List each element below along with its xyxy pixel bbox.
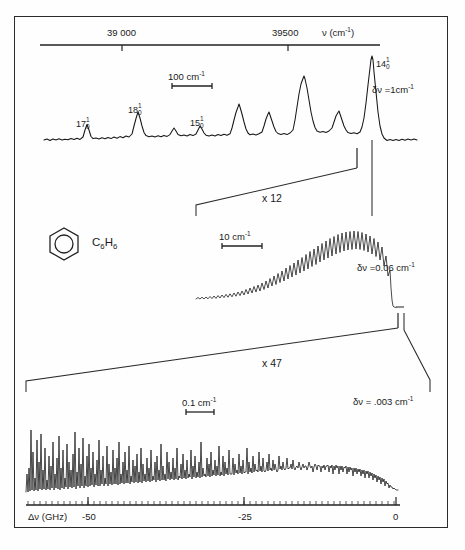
spectrum-figure: 39 000 39500 ν (cm-1) 100 cm-1 δν =1cm-1… [0,0,465,550]
bottom-axis-title: Δν (GHz) [28,512,67,522]
bottom-axis-tick-label-zero: 0 [393,512,398,522]
bottom-axis-tick-label-minus25: -25 [238,512,252,522]
bottom-resolution-sup: -1 [408,395,414,402]
bottom-spectrum-trace [26,430,398,492]
bottom-scale-bar-label: 0.1 cm-1 [182,397,216,408]
bottom-resolution-label: δν = .003 cm-1 [353,396,413,407]
bottom-resolution-text: δν = .003 cm [353,396,408,407]
bottom-axis-tick-label-minus50: -50 [82,512,96,522]
bottom-panel-graphics [0,0,465,550]
bottom-scale-bar-sup: -1 [211,396,217,403]
bottom-scale-bar-text: 0.1 cm [182,397,211,408]
